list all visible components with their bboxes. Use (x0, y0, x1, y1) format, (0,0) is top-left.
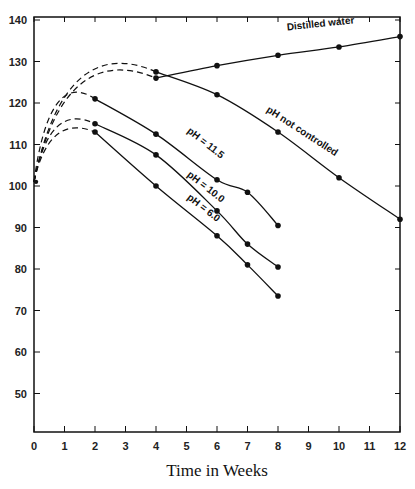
data-point (397, 216, 403, 222)
origin-point (34, 180, 38, 184)
extrapolated-segment (34, 128, 95, 182)
y-tick-label: 60 (15, 346, 27, 358)
data-point (275, 129, 281, 135)
data-point (153, 183, 159, 189)
data-point (153, 69, 159, 75)
data-point (92, 129, 98, 135)
x-tick-label: 9 (305, 440, 311, 452)
x-tick-label: 4 (153, 440, 160, 452)
data-point (245, 262, 251, 268)
data-point (275, 52, 281, 58)
data-point (245, 241, 251, 247)
y-tick-label: 130 (9, 56, 27, 68)
x-tick-label: 7 (244, 440, 250, 452)
data-point (214, 92, 220, 98)
extrapolated-segment (34, 119, 95, 182)
y-tick-label: 120 (9, 97, 27, 109)
series-distilled-water (34, 34, 403, 182)
data-point (153, 75, 159, 81)
x-tick-label: 8 (275, 440, 281, 452)
x-tick-label: 10 (333, 440, 345, 452)
data-point (397, 34, 403, 40)
x-tick-label: 5 (183, 440, 189, 452)
x-tick-label: 0 (31, 440, 37, 452)
x-tick-label: 6 (214, 440, 220, 452)
x-tick-label: 3 (122, 440, 128, 452)
data-point (92, 121, 98, 127)
x-axis-title: Time in Weeks (166, 461, 268, 480)
plot-area (34, 34, 403, 299)
y-tick-label: 100 (9, 180, 27, 192)
x-tick-label: 2 (92, 440, 98, 452)
data-point (153, 131, 159, 137)
fitted-curve (95, 99, 278, 226)
data-point (214, 177, 220, 183)
data-point (336, 175, 342, 181)
y-tick-label: 50 (15, 388, 27, 400)
data-point (214, 233, 220, 239)
data-point (275, 293, 281, 299)
data-point (214, 63, 220, 69)
y-tick-label: 80 (15, 263, 27, 275)
series-labels: Distilled waterpH not controlledpH = 11.… (185, 14, 355, 224)
y-tick-label: 110 (9, 139, 27, 151)
data-point (336, 44, 342, 50)
data-point (245, 189, 251, 195)
extrapolated-segment (34, 92, 95, 182)
series-ph-11-5 (34, 92, 281, 228)
line-chart: 5060708090100110120130140 01234567891011… (0, 0, 415, 489)
data-point (153, 152, 159, 158)
data-point (275, 223, 281, 229)
data-point (92, 96, 98, 102)
y-tick-label: 90 (15, 222, 27, 234)
x-tick-label: 12 (394, 440, 406, 452)
x-tick-label: 11 (364, 440, 376, 452)
x-tick-label: 1 (61, 440, 67, 452)
series-label: pH = 11.5 (185, 125, 227, 161)
series-ph-10-0 (34, 119, 281, 270)
plot-frame (34, 17, 400, 432)
y-tick-label: 70 (15, 305, 27, 317)
data-point (275, 264, 281, 270)
y-tick-label: 140 (9, 14, 27, 26)
